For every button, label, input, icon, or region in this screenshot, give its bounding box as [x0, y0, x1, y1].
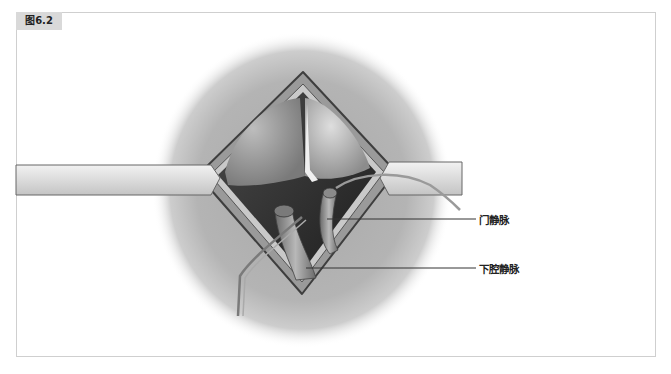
- label-inferior-vena-cava: 下腔静脉: [479, 261, 519, 276]
- surgical-illustration: [0, 0, 671, 374]
- label-portal-vein: 门静脉: [479, 212, 509, 227]
- right-retractor: [380, 162, 462, 195]
- left-retractor: [16, 165, 220, 195]
